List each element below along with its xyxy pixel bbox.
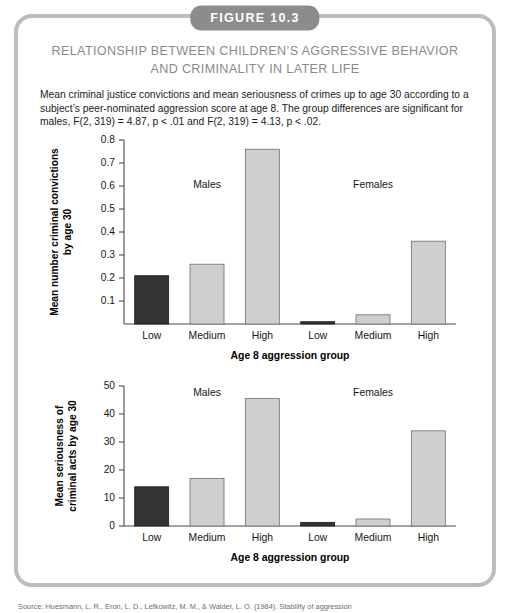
figure-title: RELATIONSHIP BETWEEN CHILDREN’S AGGRESSI… [18, 42, 492, 78]
y-axis-title-line-2: criminal acts by age 30 [67, 400, 78, 512]
bar [245, 399, 279, 526]
y-tick-label: 20 [104, 464, 116, 475]
x-tick-label: Medium [355, 532, 392, 543]
bar [356, 315, 390, 324]
bar [135, 276, 169, 324]
y-tick-label: 0.3 [101, 249, 115, 260]
source-citation: Source: Huesmann, L. R., Eron, L. D., Le… [18, 602, 352, 611]
bar [411, 431, 445, 526]
figure-title-line-1: RELATIONSHIP BETWEEN CHILDREN’S AGGRESSI… [18, 42, 492, 60]
y-tick-label: 0.6 [101, 180, 115, 191]
y-tick-label: 0.5 [101, 203, 115, 214]
y-tick-label: 0.4 [101, 226, 115, 237]
chart-seriousness-svg: 01020304050LowMediumHighLowMediumHighMal… [18, 376, 500, 588]
bar [135, 487, 169, 526]
figure-box: FIGURE 10.3 RELATIONSHIP BETWEEN CHILDRE… [14, 14, 496, 587]
y-axis-title-line-2: by age 30 [62, 208, 73, 255]
bar [356, 519, 390, 526]
x-tick-label: Low [142, 330, 162, 341]
bar [190, 478, 224, 526]
x-tick-label: High [252, 532, 274, 543]
group-label-females: Females [353, 387, 393, 398]
y-tick-label: 30 [104, 436, 116, 447]
x-tick-label: Medium [189, 532, 226, 543]
x-tick-label: Low [308, 330, 328, 341]
figure-number-badge: FIGURE 10.3 [190, 6, 319, 31]
figure-title-line-2: AND CRIMINALITY IN LATER LIFE [18, 60, 492, 78]
y-tick-label: 0.8 [101, 134, 115, 145]
y-tick-label: 0.7 [101, 157, 115, 168]
x-tick-label: High [252, 330, 274, 341]
x-tick-label: Low [142, 532, 162, 543]
y-tick-label: 50 [104, 380, 116, 391]
bar [301, 322, 335, 324]
chart-convictions-svg: 0.10.20.30.40.50.60.70.8LowMediumHighLow… [18, 130, 500, 362]
chart-convictions: 0.10.20.30.40.50.60.70.8LowMediumHighLow… [18, 130, 500, 362]
group-label-males: Males [193, 179, 221, 190]
x-axis-title: Age 8 aggression group [231, 350, 350, 361]
bar [411, 241, 445, 324]
bar [190, 264, 224, 324]
figure-caption: Mean criminal justice convictions and me… [40, 88, 472, 129]
x-tick-label: High [418, 532, 440, 543]
group-label-males: Males [193, 387, 221, 398]
y-axis-title: Mean seriousness of [54, 405, 65, 506]
x-tick-label: Medium [189, 330, 226, 341]
y-tick-label: 40 [104, 408, 116, 419]
y-tick-label: 0.1 [101, 295, 115, 306]
y-axis-title: Mean number criminal convictions [49, 148, 60, 316]
group-label-females: Females [353, 179, 393, 190]
x-tick-label: High [418, 330, 440, 341]
bar [301, 522, 335, 526]
bar [245, 149, 279, 324]
x-tick-label: Low [308, 532, 328, 543]
x-axis-title: Age 8 aggression group [231, 552, 350, 563]
y-tick-label: 0 [109, 520, 115, 531]
y-tick-label: 0.2 [101, 272, 115, 283]
chart-seriousness: 01020304050LowMediumHighLowMediumHighMal… [18, 376, 500, 588]
y-tick-label: 10 [104, 492, 116, 503]
x-tick-label: Medium [355, 330, 392, 341]
